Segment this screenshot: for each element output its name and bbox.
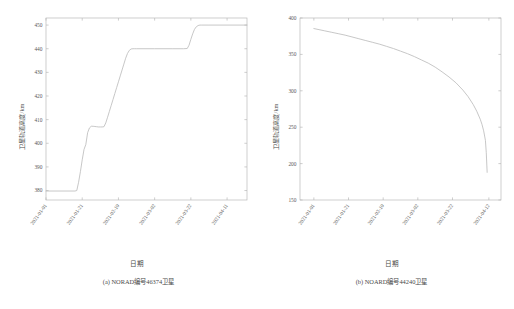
svg-text:2021-01-01: 2021-01-01 — [29, 202, 48, 226]
svg-text:2021-01-21: 2021-01-21 — [65, 202, 84, 226]
svg-text:2021-04-11: 2021-04-11 — [210, 202, 229, 225]
svg-text:400: 400 — [288, 15, 296, 21]
svg-text:200: 200 — [288, 161, 296, 167]
svg-text:2021-03-02: 2021-03-02 — [138, 202, 157, 226]
svg-text:380: 380 — [34, 187, 42, 193]
y-axis-title-a: 卫星轨道高度/km — [17, 103, 26, 150]
svg-text:2021-04-12: 2021-04-12 — [472, 202, 491, 226]
svg-text:350: 350 — [288, 51, 296, 57]
svg-text:250: 250 — [288, 124, 296, 130]
svg-text:450: 450 — [34, 22, 42, 28]
panel-caption-b: (b) NOARD编号44240卫星 — [263, 277, 514, 286]
svg-text:2021-03-22: 2021-03-22 — [435, 202, 454, 226]
panel-caption-a: (a) NORAD编号46374卫星 — [10, 277, 267, 286]
svg-text:430: 430 — [34, 69, 42, 75]
svg-text:2021-03-22: 2021-03-22 — [174, 202, 193, 226]
chart-panel-a: 3803904004104204304404502021-01-012021-0… — [0, 0, 257, 309]
svg-text:2021-01-21: 2021-01-21 — [332, 202, 351, 226]
svg-text:2021-02-10: 2021-02-10 — [366, 202, 385, 226]
svg-text:2021-02-10: 2021-02-10 — [101, 202, 120, 226]
y-axis-title-b: 卫星轨道高度/km — [271, 103, 280, 150]
chart-panel-b: 1502002503003504002021-01-012021-01-2120… — [257, 0, 514, 309]
svg-text:2021-03-02: 2021-03-02 — [401, 202, 420, 226]
figure-container: 3803904004104204304404502021-01-012021-0… — [0, 0, 514, 309]
svg-text:410: 410 — [34, 117, 42, 123]
svg-text:400: 400 — [34, 140, 42, 146]
svg-text:390: 390 — [34, 164, 42, 170]
x-axis-title-a: 日期 — [8, 258, 265, 268]
svg-text:440: 440 — [34, 46, 42, 52]
svg-text:150: 150 — [288, 197, 296, 203]
svg-text:300: 300 — [288, 88, 296, 94]
x-axis-title-b: 日期 — [263, 258, 514, 268]
svg-text:2021-01-01: 2021-01-01 — [297, 202, 316, 226]
svg-text:420: 420 — [34, 93, 42, 99]
